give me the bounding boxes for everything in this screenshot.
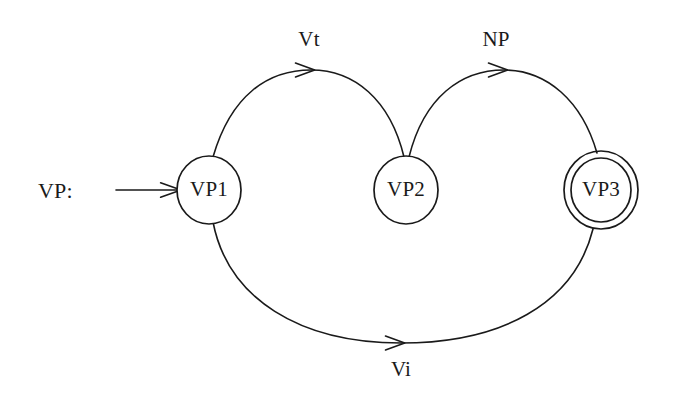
- transition-label-np: NP: [482, 27, 509, 51]
- state-label-vp3: VP3: [582, 177, 620, 201]
- state-node-vp1[interactable]: VP1: [177, 156, 241, 224]
- state-nodes: VP1 VP2 VP3: [177, 151, 638, 229]
- state-label-vp2: VP2: [387, 177, 425, 201]
- fsm-diagram: VP1 VP2 VP3 VP: Vt NP Vi: [0, 0, 681, 400]
- transition-label-vi: Vi: [391, 357, 411, 381]
- state-node-vp2[interactable]: VP2: [374, 156, 438, 224]
- fsm-canvas: VP1 VP2 VP3 VP: Vt NP Vi: [0, 0, 681, 400]
- transition-edge-vt[interactable]: [213, 70, 404, 157]
- state-node-vp3[interactable]: VP3: [564, 151, 638, 229]
- transition-label-vt: Vt: [298, 27, 319, 51]
- entry-label: VP:: [38, 178, 73, 203]
- diagram-labels: VP: Vt NP Vi: [38, 27, 510, 381]
- transition-edge-vi[interactable]: [213, 222, 593, 343]
- transition-edge-np[interactable]: [409, 70, 597, 157]
- state-label-vp1: VP1: [190, 177, 228, 201]
- entry-arrow-group: [116, 183, 181, 198]
